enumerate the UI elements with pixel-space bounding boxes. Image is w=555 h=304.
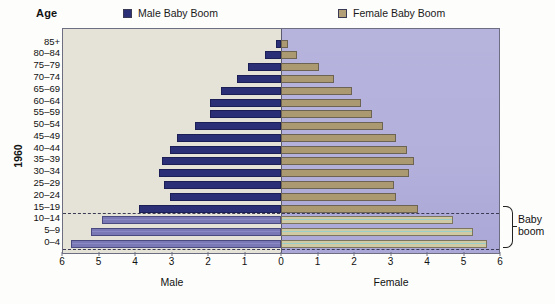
bar-male-10-14 — [102, 216, 281, 224]
baby-boom-upper-divider — [63, 213, 499, 214]
age-group-label: 70–74 — [14, 72, 60, 82]
bar-male-65-69 — [221, 87, 281, 95]
x-axis-tick-label: 1 — [242, 256, 248, 267]
legend-item-female: Female Baby Boom — [338, 7, 445, 19]
bar-inner-stripe — [282, 243, 486, 244]
bar-male-55-59 — [210, 110, 281, 118]
bar-male-0-4 — [71, 240, 281, 248]
x-axis-tick-label: 5 — [96, 256, 102, 267]
x-axis-tick-label: 2 — [205, 256, 211, 267]
age-group-label: 85+ — [14, 37, 60, 47]
bar-male-5-9 — [91, 228, 281, 236]
bar-female-25-29 — [281, 181, 394, 189]
age-group-label: 20–24 — [14, 190, 60, 200]
legend-item-male: Male Baby Boom — [123, 7, 218, 19]
age-group-label: 30–34 — [14, 166, 60, 176]
plot-area — [62, 28, 500, 254]
x-axis-tick-label: 4 — [132, 256, 138, 267]
bar-female-40-44 — [281, 146, 407, 154]
bar-male-40-44 — [170, 146, 281, 154]
age-group-label: 40–44 — [14, 143, 60, 153]
x-axis-tick-label: 3 — [388, 256, 394, 267]
bar-male-75-79 — [248, 63, 281, 71]
age-group-label: 55–59 — [14, 107, 60, 117]
x-axis-tick-label: 2 — [351, 256, 357, 267]
bar-female-55-59 — [281, 110, 372, 118]
x-axis-caption-female: Female — [373, 276, 408, 288]
population-pyramid-figure: Age Male Baby Boom Female Baby Boom 1960… — [0, 0, 555, 304]
age-group-label: 5–9 — [14, 225, 60, 235]
x-axis-caption-male: Male — [161, 276, 184, 288]
bar-male-15-19 — [139, 205, 281, 213]
x-axis-tick-label: 4 — [424, 256, 430, 267]
baby-boom-brace-tip — [512, 226, 517, 227]
bar-male-60-64 — [210, 99, 281, 107]
age-group-label: 15–19 — [14, 202, 60, 212]
baby-boom-lower-divider — [63, 249, 499, 250]
age-group-label: 60–64 — [14, 96, 60, 106]
bar-female-5-9 — [281, 228, 473, 236]
bar-female-20-24 — [281, 193, 396, 201]
bar-male-20-24 — [170, 193, 281, 201]
x-axis-tick-label: 5 — [461, 256, 467, 267]
bar-female-85+ — [281, 40, 288, 48]
baby-boom-brace — [503, 206, 513, 248]
bar-inner-stripe — [72, 243, 280, 244]
bar-male-45-49 — [177, 134, 281, 142]
x-axis-tick-label: 1 — [315, 256, 321, 267]
bar-inner-stripe — [103, 219, 280, 220]
bar-female-45-49 — [281, 134, 396, 142]
bar-female-80-84 — [281, 51, 297, 59]
x-axis-tick-label: 6 — [59, 256, 65, 267]
age-group-label: 35–39 — [14, 154, 60, 164]
x-axis-tick-label: 0 — [278, 256, 284, 267]
age-group-label: 25–29 — [14, 178, 60, 188]
x-axis-ticks: 6543210123456 — [62, 256, 500, 270]
age-axis-title: Age — [36, 7, 57, 19]
bar-inner-stripe — [282, 231, 472, 232]
age-group-label: 45–49 — [14, 131, 60, 141]
bar-male-30-34 — [159, 169, 281, 177]
bar-female-35-39 — [281, 157, 414, 165]
age-group-label: 0–4 — [14, 237, 60, 247]
bar-male-70-74 — [237, 75, 281, 83]
bar-female-0-4 — [281, 240, 487, 248]
bar-female-60-64 — [281, 99, 361, 107]
bar-inner-stripe — [282, 219, 452, 220]
age-group-label: 75–79 — [14, 60, 60, 70]
bar-male-35-39 — [162, 157, 281, 165]
bar-female-65-69 — [281, 87, 352, 95]
age-group-label: 50–54 — [14, 119, 60, 129]
bar-female-10-14 — [281, 216, 453, 224]
bar-inner-stripe — [92, 231, 280, 232]
bar-female-50-54 — [281, 122, 383, 130]
x-axis-tick-label: 3 — [169, 256, 175, 267]
x-axis-tick-label: 6 — [497, 256, 503, 267]
bar-female-15-19 — [281, 205, 418, 213]
baby-boom-annotation-line2: boom — [518, 225, 544, 237]
age-group-label: 10–14 — [14, 213, 60, 223]
legend-label-male: Male Baby Boom — [138, 7, 218, 19]
bar-male-80-84 — [265, 51, 281, 59]
legend-label-female: Female Baby Boom — [353, 7, 445, 19]
bar-female-75-79 — [281, 63, 319, 71]
age-group-label: 65–69 — [14, 84, 60, 94]
baby-boom-annotation-line1: Baby — [518, 213, 544, 225]
bar-female-30-34 — [281, 169, 409, 177]
baby-boom-annotation: Baby boom — [518, 213, 544, 237]
age-group-label: 80–84 — [14, 48, 60, 58]
bar-male-50-54 — [195, 122, 281, 130]
square-swatch-icon — [338, 9, 347, 18]
bar-female-70-74 — [281, 75, 334, 83]
bar-male-25-29 — [164, 181, 281, 189]
square-swatch-icon — [123, 9, 132, 18]
